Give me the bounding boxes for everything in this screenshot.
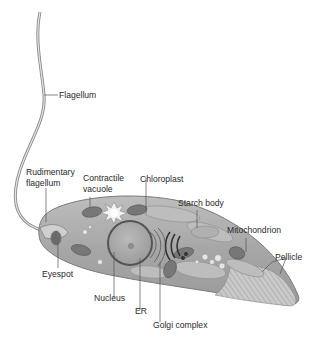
eyespot [52, 232, 60, 244]
label-rudimentary-flagellum-line2: flagellum [26, 178, 60, 188]
label-golgi-complex: Golgi complex [153, 320, 207, 330]
label-nucleus: Nucleus [94, 293, 125, 303]
label-mitochondrion: Mitochondrion [227, 225, 281, 235]
label-starch-body: Starch body [178, 198, 224, 208]
label-rudimentary-flagellum-line1: Rudimentary [26, 167, 75, 177]
label-pellicle: Pellicle [275, 252, 302, 262]
label-er: ER [135, 306, 147, 316]
label-flagellum: Flagellum [59, 90, 96, 100]
label-chloroplast: Chloroplast [140, 174, 183, 184]
label-contractile-vacuole-line1: Contractile [83, 173, 124, 183]
starch-body [191, 226, 219, 238]
label-contractile-vacuole-line2: vacuole [83, 184, 113, 194]
label-eyespot: Eyespot [42, 269, 73, 279]
nucleus [108, 221, 152, 265]
flagellum [15, 12, 70, 234]
